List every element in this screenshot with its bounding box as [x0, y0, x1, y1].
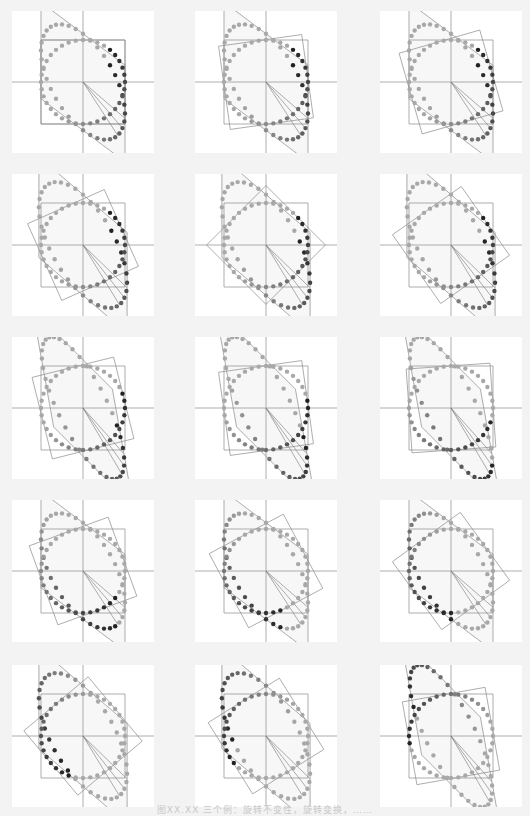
circle-dot	[463, 119, 467, 123]
circle-dot	[305, 73, 309, 77]
ellipse-dot	[39, 537, 43, 541]
ellipse-dot	[243, 22, 247, 26]
ellipse-dot	[456, 299, 460, 303]
circle-dot	[232, 542, 236, 546]
ellipse-dot	[490, 455, 494, 459]
circle-dot	[300, 755, 304, 759]
ellipse-dot	[279, 208, 283, 212]
circle-dot	[490, 73, 494, 77]
ellipse-dot	[39, 40, 43, 44]
circle-dot	[81, 611, 85, 615]
circle-dot	[113, 216, 117, 220]
circle-dot	[407, 243, 411, 247]
ellipse-dot	[287, 475, 291, 479]
circle-dot	[470, 116, 474, 120]
circle-dot	[488, 257, 492, 261]
circle-dot	[412, 713, 416, 717]
ellipse-dot	[305, 119, 309, 123]
ellipse-dot	[121, 470, 125, 474]
circle-dot	[81, 201, 85, 205]
circle-dot	[417, 596, 421, 600]
circle-dot	[305, 576, 309, 580]
circle-dot	[428, 697, 432, 701]
ellipse-dot	[432, 341, 436, 345]
panel-plot	[380, 11, 522, 153]
ellipse-dot	[415, 388, 419, 392]
ellipse-dot	[246, 425, 250, 429]
circle-dot	[66, 529, 70, 533]
ellipse-dot	[296, 135, 300, 139]
circle-dot	[117, 385, 121, 389]
circle-dot	[117, 427, 121, 431]
ellipse-dot	[125, 281, 129, 285]
circle-dot	[412, 548, 416, 552]
circle-dot	[232, 53, 236, 57]
ellipse-dot	[278, 136, 282, 140]
ellipse-dot	[39, 225, 43, 229]
ellipse-dot	[442, 516, 446, 520]
ellipse-dot	[306, 600, 310, 604]
circle-dot	[222, 576, 226, 580]
circle-dot	[485, 427, 489, 431]
ellipse-dot	[113, 135, 117, 139]
circle-dot	[102, 279, 106, 283]
circle-dot	[264, 611, 268, 615]
ellipse-dot	[452, 457, 456, 461]
ellipse-dot	[415, 246, 419, 250]
ellipse-dot	[66, 513, 70, 517]
ellipse-dot	[119, 792, 123, 796]
ellipse-dot	[286, 796, 290, 800]
ellipse-dot	[489, 798, 493, 802]
ellipse-dot	[425, 741, 429, 745]
circle-dot	[306, 569, 310, 573]
ellipse-dot	[230, 246, 234, 250]
circle-dot	[285, 697, 289, 701]
circle-dot	[66, 445, 70, 449]
ellipse-dot	[39, 681, 43, 685]
ellipse-dot	[74, 122, 78, 126]
circle-dot	[49, 596, 53, 600]
circle-dot	[428, 279, 432, 283]
circle-dot	[232, 596, 236, 600]
circle-dot	[409, 719, 413, 723]
circle-dot	[291, 766, 295, 770]
ellipse-dot	[405, 205, 409, 209]
ellipse-dot	[84, 457, 88, 461]
ellipse-dot	[122, 119, 126, 123]
circle-dot	[41, 65, 45, 69]
circle-dot	[49, 53, 53, 57]
ellipse-dot	[240, 337, 244, 341]
circle-dot	[490, 562, 494, 566]
circle-dot	[296, 707, 300, 711]
ellipse-dot	[470, 543, 474, 547]
circle-dot	[291, 537, 295, 541]
circle-dot	[296, 596, 300, 600]
ellipse-dot	[300, 83, 304, 87]
ellipse-dot	[249, 183, 253, 187]
ellipse-dot	[43, 185, 47, 189]
circle-dot	[237, 601, 241, 605]
circle-dot	[422, 537, 426, 541]
circle-dot	[249, 773, 253, 777]
circle-dot	[243, 697, 247, 701]
ellipse-dot	[408, 356, 412, 360]
circle-dot	[232, 433, 236, 437]
circle-dot	[232, 216, 236, 220]
ellipse-dot	[66, 183, 70, 187]
circle-dot	[303, 719, 307, 723]
circle-dot	[422, 48, 426, 52]
ellipse-dot	[425, 337, 429, 341]
ellipse-dot	[264, 683, 268, 687]
circle-dot	[117, 590, 121, 594]
ellipse-dot	[224, 34, 228, 38]
ellipse-dot	[481, 135, 485, 139]
ellipse-dot	[441, 286, 445, 290]
circle-dot	[417, 270, 421, 274]
circle-dot	[285, 206, 289, 210]
circle-dot	[278, 366, 282, 370]
ellipse-dot	[291, 137, 295, 141]
ellipse-dot	[257, 516, 261, 520]
circle-dot	[249, 529, 253, 533]
ellipse-dot	[489, 470, 493, 474]
circle-dot	[122, 250, 126, 254]
